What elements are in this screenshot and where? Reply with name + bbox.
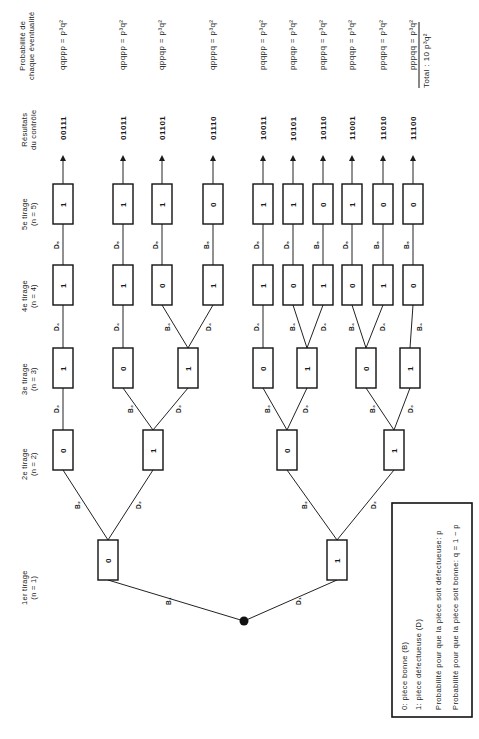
edge-label: D₃ — [175, 405, 182, 413]
node-value: 0 — [289, 283, 298, 288]
edge-label: D₅ — [53, 240, 60, 248]
edge-label: B₅ — [403, 240, 410, 248]
tree-edge — [244, 580, 337, 621]
tree-edge — [287, 470, 337, 540]
edge-label: D₄ — [253, 322, 260, 330]
node-value: 1 — [348, 202, 357, 207]
node-value: 1 — [319, 283, 328, 288]
node-value: 1 — [59, 283, 68, 288]
edge-label: B₃ — [264, 405, 271, 413]
node-value: 1 — [149, 448, 158, 453]
edge-label: D₅ — [253, 240, 260, 248]
node-value: 0 — [379, 202, 388, 207]
node-value: 0 — [209, 202, 218, 207]
tree-edge — [337, 470, 394, 540]
edge-label: D₄ — [320, 322, 327, 330]
result-code: 11100 — [409, 116, 418, 140]
probability-expression: qpqpp = p³q² — [118, 20, 127, 70]
edge-label: B₅ — [313, 240, 320, 248]
edge-label: D₂ — [370, 501, 377, 509]
edge-label: B₄ — [416, 322, 423, 330]
edge-label: D₃ — [407, 405, 414, 413]
edge-label: D₅ — [283, 240, 290, 248]
node-value: 0 — [319, 202, 328, 207]
result-code: 10011 — [259, 116, 268, 140]
node-value: 1 — [289, 202, 298, 207]
edge-label: B₃ — [127, 405, 134, 413]
probability-expression: pqqpp = p³q² — [258, 20, 267, 70]
result-code: 11010 — [379, 116, 388, 140]
header-level4: 4e tirage(n = 4) — [20, 280, 38, 312]
probability-expression: ppqpq = p³q² — [378, 20, 387, 70]
edge-label: D₅ — [113, 240, 120, 248]
probability-expression: ppqqp = p³q² — [347, 20, 356, 70]
node-value: 1 — [59, 202, 68, 207]
node-value: 0 — [362, 366, 371, 371]
tree-edge — [153, 388, 188, 430]
edge-label: B₄ — [348, 322, 355, 330]
node-value: 0 — [348, 283, 357, 288]
tree-edge — [108, 580, 244, 621]
node-value: 0 — [283, 448, 292, 453]
result-code: 01011 — [119, 116, 128, 140]
edge-label: D₄ — [379, 322, 386, 330]
tree-edge — [108, 470, 153, 540]
edge-label: D₄ — [53, 322, 60, 330]
edge-label: D₄ — [205, 322, 212, 330]
edge-label: D₁ — [295, 597, 302, 605]
probability-expression: pqppq = p³q² — [318, 20, 327, 70]
node-value: 1 — [259, 202, 268, 207]
header-level3: 3e tirage(n = 3) — [20, 363, 38, 395]
node-value: 1 — [379, 283, 388, 288]
node-value: 1 — [209, 283, 218, 288]
edge-label: B₂ — [301, 501, 308, 509]
probability-expression: qpppq = p³q² — [208, 20, 217, 70]
result-code: 00111 — [59, 116, 68, 140]
legend-prob-defective: Probabilité pour que la pièce soit défec… — [434, 530, 443, 710]
edge-label: D₃ — [53, 405, 60, 413]
edge-label: D₅ — [342, 240, 349, 248]
node-value: 0 — [158, 283, 167, 288]
node-value: 0 — [59, 448, 68, 453]
edge-label: B₁ — [165, 597, 172, 605]
node-value: 0 — [409, 202, 418, 207]
node-value: 1 — [59, 366, 68, 371]
probability-expression: pppqq = p³q² — [408, 20, 417, 70]
tree-edge — [63, 470, 108, 540]
result-code: 01101 — [158, 116, 167, 140]
node-value: 0 — [119, 366, 128, 371]
probability-expression: qqppp = p³q² — [58, 20, 67, 70]
legend-item-defective: 1: pièce défectueuse (D) — [414, 619, 423, 710]
total-label: Total : 10 p³q² — [422, 33, 431, 88]
node-value: 1 — [119, 283, 128, 288]
node-value: 1 — [390, 448, 399, 453]
node-value: 1 — [406, 366, 415, 371]
edge-label: D₄ — [113, 322, 120, 330]
result-code: 10101 — [289, 116, 298, 141]
edge-label: D₅ — [152, 240, 159, 248]
legend-item-good: 0: pièce bonne (B) — [400, 642, 409, 711]
node-value: 1 — [333, 558, 342, 563]
result-code: 01110 — [209, 116, 218, 140]
header-probability: Probabilité dechaque éventualité — [18, 12, 36, 80]
edge-label: B₄ — [164, 322, 171, 330]
node-value: 1 — [158, 202, 167, 207]
probability-expression: qppqp = p³q² — [157, 20, 166, 70]
edge-label: B₂ — [74, 501, 81, 509]
node-value: 1 — [259, 283, 268, 288]
node-value: 0 — [259, 366, 268, 371]
edge-label: D₃ — [302, 405, 309, 413]
edge-label: D₂ — [135, 501, 142, 509]
header-level2: 2e tirage(n = 2) — [20, 448, 38, 480]
probability-expression: pqpqp = p³q² — [288, 20, 297, 70]
node-value: 1 — [184, 366, 193, 371]
result-code: 10110 — [319, 116, 328, 140]
node-value: 0 — [409, 283, 418, 288]
node-value: 1 — [303, 366, 312, 371]
edge-label: B₅ — [203, 240, 210, 248]
root-node — [240, 617, 249, 626]
edge-label: B₄ — [289, 322, 296, 330]
header-level5: 5e tirage(n = 5) — [20, 198, 38, 230]
tree-edge — [410, 305, 413, 348]
result-code: 11001 — [348, 116, 357, 140]
